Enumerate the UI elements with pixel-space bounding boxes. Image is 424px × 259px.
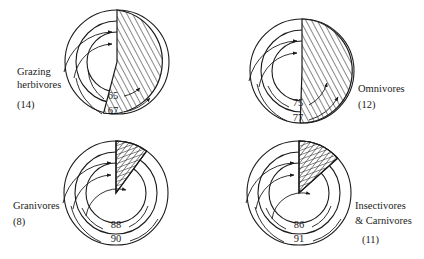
group-label-line1: Grazing — [17, 66, 52, 77]
numline-inner — [88, 70, 104, 99]
leader-outer — [272, 193, 310, 219]
group-label-line1: Insectivores — [355, 200, 406, 211]
leader-outer — [86, 189, 126, 216]
ring-value-inner: 88 — [111, 219, 122, 230]
numline-outer — [76, 78, 102, 114]
ring-value-inner: 86 — [294, 219, 305, 230]
hatched-sector — [300, 19, 352, 123]
leader-middle — [259, 53, 297, 87]
ring-value-outer: 91 — [294, 233, 305, 244]
panel-grazing-herbivores: 65 67 Grazing herbivores (14) — [17, 10, 169, 116]
figure-canvas: 65 67 Grazing herbivores (14) 75 77 Omni… — [0, 0, 424, 259]
ring-value-outer: 67 — [108, 105, 119, 116]
numline-outer — [255, 207, 284, 242]
group-count: (11) — [362, 234, 380, 246]
group-label-line1: Granivores — [13, 200, 60, 211]
ring-value-outer: 90 — [111, 233, 122, 244]
ring-value-outer: 77 — [293, 112, 304, 123]
hatched-sector-overlay — [299, 141, 338, 193]
group-count: (12) — [358, 99, 376, 111]
circular-diagram-figure: 65 67 Grazing herbivores (14) 75 77 Omni… — [0, 0, 424, 259]
ring-value-inner: 75 — [293, 97, 304, 108]
numline-outer — [71, 206, 101, 242]
group-label-line2: & Carnivores — [355, 215, 412, 226]
panel-omnivores: 75 77 Omnivores (12) — [249, 19, 405, 123]
group-label-line1: Omnivores — [358, 83, 405, 94]
group-count: (14) — [17, 99, 35, 111]
group-label-line2: herbivores — [17, 79, 61, 90]
panel-insectivores-carnivores: 86 91 Insectivores & Carnivores (11) — [246, 141, 412, 246]
leader-middle — [73, 175, 111, 209]
leader-middle — [74, 44, 112, 78]
ring-value-inner: 65 — [108, 90, 119, 101]
hatched-sector-overlay — [116, 141, 147, 193]
panel-granivores: 88 90 Granivores (8) — [13, 141, 168, 245]
numline-inner-arrow — [129, 206, 148, 227]
numline-outer — [257, 84, 287, 121]
leader-middle — [256, 175, 294, 209]
group-count: (8) — [13, 216, 26, 228]
numline-inner-arrow — [312, 206, 331, 227]
